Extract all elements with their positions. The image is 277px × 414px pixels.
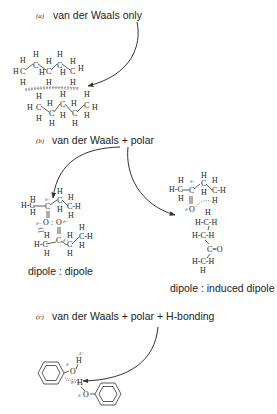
svg-text:H: H (46, 57, 52, 66)
svg-text:δ+: δ+ (79, 351, 85, 356)
svg-text:C: C (46, 67, 51, 76)
svg-text:H: H (212, 196, 218, 205)
svg-text:C=O: C=O (207, 245, 223, 254)
svg-text:H: H (84, 90, 90, 99)
svg-text:H-C-H: H-C-H (192, 231, 214, 240)
pentane-molecule-bottom: H H C H H C H H C H H C H H C H H (27, 90, 98, 128)
svg-text:H: H (47, 99, 53, 108)
intermolecular-forces-diagram: (a) van der Waals only H H C H H C H H C… (0, 0, 277, 414)
svg-text:C: C (20, 67, 25, 76)
svg-text:H: H (201, 188, 207, 197)
svg-text:δ+: δ+ (71, 380, 77, 385)
svg-text:H: H (33, 50, 39, 59)
svg-text:H: H (70, 57, 76, 66)
svg-text:H: H (60, 90, 66, 99)
svg-text:H: H (57, 187, 63, 196)
section-a: (a) van der Waals only H H C H H C H H C… (13, 9, 143, 128)
svg-text:H: H (27, 103, 33, 112)
section-c: (c) van der Waals + polar + H-bonding δ … (36, 310, 215, 405)
svg-text:H: H (67, 249, 73, 258)
section-b-title: van der Waals + polar (52, 134, 155, 146)
svg-text:H: H (77, 378, 83, 387)
svg-text:C: C (189, 186, 194, 195)
svg-text:δ+: δ+ (190, 179, 196, 184)
svg-text:H: H (200, 266, 206, 275)
svg-text:H: H (76, 356, 82, 365)
svg-text:H: H (92, 103, 98, 112)
svg-text:δ: δ (66, 362, 69, 367)
svg-text:C: C (56, 236, 61, 245)
svg-text:C: C (72, 109, 77, 118)
svg-text:C-H: C-H (67, 202, 81, 211)
section-a-tag: (a) (36, 12, 45, 20)
svg-text:H: H (13, 67, 19, 76)
svg-text:O: O (43, 218, 49, 227)
section-c-tag: (c) (36, 313, 44, 321)
svg-text:H: H (36, 114, 42, 123)
section-c-title: van der Waals + polar + H-bonding (52, 310, 215, 322)
svg-text:C: C (36, 103, 41, 112)
svg-text:O: O (189, 205, 195, 214)
svg-text:H: H (178, 194, 184, 203)
svg-text:H-C: H-C (169, 185, 183, 194)
svg-text:δ: δ (78, 393, 81, 398)
svg-text:H: H (68, 211, 74, 220)
svg-text:H: H (39, 68, 45, 77)
section-b: (b) van der Waals + polar H H-C H δ+ C H… (21, 134, 275, 294)
svg-text:H: H (20, 56, 26, 65)
svg-text:C: C (67, 240, 72, 249)
svg-text:C-H: C-H (79, 232, 93, 241)
curved-arrow-a (88, 22, 138, 86)
svg-text:C-H: C-H (212, 186, 226, 195)
svg-text:H: H (60, 68, 66, 77)
svg-text::: : (51, 218, 53, 227)
svg-text:C: C (57, 196, 62, 205)
svg-text:H: H (178, 176, 184, 185)
svg-text:H: H (78, 64, 84, 73)
svg-text:O: O (83, 390, 89, 399)
phenol-molecule-bottom: δ+ H δ O (71, 378, 121, 405)
ketone-pair-dipole-dipole: H H-C H δ+ C H C H H C-H H δ− O : O δ− H… (21, 187, 93, 258)
svg-text:H: H (60, 111, 66, 120)
pentane-molecule-top: H H C H H C H H C H H C H H C H H (13, 50, 84, 87)
svg-text:C: C (70, 67, 75, 76)
svg-text:H-C-H: H-C-H (192, 257, 214, 266)
svg-text:C: C (45, 202, 50, 211)
svg-text:H: H (70, 78, 76, 87)
svg-text:C: C (84, 101, 89, 110)
svg-text:δ−: δ− (63, 219, 69, 224)
svg-text:H: H (46, 78, 52, 87)
svg-text:O: O (70, 367, 76, 376)
caption-dipole-induced-dipole: dipole : induced dipole (170, 282, 275, 294)
svg-text:H: H (30, 208, 36, 217)
svg-text:H: H (72, 119, 78, 128)
svg-text:H-C: H-C (34, 240, 48, 249)
svg-text:C: C (60, 100, 65, 109)
svg-text:H: H (71, 99, 77, 108)
svg-text:H: H (57, 205, 63, 214)
svg-text:H: H (49, 119, 55, 128)
svg-text:H: H (44, 231, 50, 240)
svg-text:H: H (68, 193, 74, 202)
svg-text:H: H (79, 223, 85, 232)
svg-text:H: H (36, 92, 42, 101)
svg-text:O: O (56, 218, 62, 227)
svg-text:C: C (201, 179, 206, 188)
section-a-title: van der Waals only (53, 9, 143, 21)
svg-text:H: H (44, 249, 50, 258)
curved-arrow-c (83, 327, 158, 381)
section-b-tag: (b) (36, 137, 45, 145)
svg-text:H: H (67, 231, 73, 240)
svg-text:H: H (84, 111, 90, 120)
svg-text:H: H (205, 208, 211, 217)
svg-text:H: H (212, 176, 218, 185)
ketone-alkane-induced-dipole: H H-C H δ+ C H C H H C-H H δ O H H-C-H H… (169, 171, 226, 275)
svg-text:H-C-H: H-C-H (195, 218, 217, 227)
svg-text:C: C (49, 109, 54, 118)
curved-arrow-b-left (53, 147, 120, 198)
svg-text:H: H (79, 241, 85, 250)
svg-text:H: H (57, 50, 63, 59)
curved-arrow-b-right (128, 147, 175, 215)
svg-text:C: C (33, 61, 38, 70)
caption-dipole-dipole: dipole : dipole (28, 265, 93, 277)
